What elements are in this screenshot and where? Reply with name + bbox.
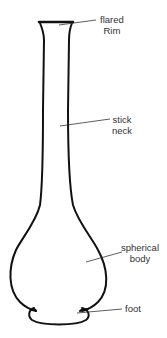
label-flared-rim: flared Rim [100, 14, 124, 36]
label-line: body [121, 253, 159, 264]
vase-left-outline [10, 23, 44, 311]
vase-drawing [0, 0, 167, 338]
body-leader-line [86, 252, 122, 262]
label-stick-neck: stick neck [112, 114, 132, 136]
label-line: stick [112, 114, 132, 125]
vase-right-outline [68, 23, 106, 311]
label-line: foot [125, 303, 141, 314]
label-line: flared [100, 14, 124, 25]
label-spherical-body: spherical body [121, 242, 159, 264]
label-line: neck [112, 125, 132, 136]
label-foot: foot [125, 303, 141, 314]
label-line: Rim [100, 25, 124, 36]
label-line: spherical [121, 242, 159, 253]
